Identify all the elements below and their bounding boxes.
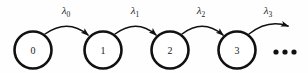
ellipsis-dot-1 [273,49,278,54]
state-label-2: 2 [168,45,173,56]
transition-arc-lambda-0 [45,26,88,35]
rate-labels-group: λ0 λ1 λ2 λ3 [61,4,273,19]
rate-label-lambda-2: λ2 [196,4,206,19]
lambda-subscript-3: 3 [269,10,273,19]
diagram-canvas: 0 1 2 3 λ0 λ1 λ2 [0,0,308,73]
rate-label-lambda-1: λ1 [130,4,140,19]
transition-arc-lambda-2 [182,26,223,35]
state-label-1: 1 [101,45,106,56]
ellipsis-dot-2 [282,49,287,54]
ellipsis-dot-3 [291,49,296,54]
rate-label-lambda-3: λ3 [263,4,273,19]
transition-arc-lambda-3 [249,24,288,34]
lambda-subscript-2: 2 [202,10,206,19]
state-node-0[interactable]: 0 [15,32,52,69]
markov-chain-diagram: 0 1 2 3 λ0 λ1 λ2 [0,0,308,73]
rate-label-lambda-0: λ0 [61,4,71,19]
state-label-0: 0 [31,45,36,56]
lambda-subscript-0: 0 [67,10,71,19]
state-node-3[interactable]: 3 [219,32,256,69]
state-nodes-group: 0 1 2 3 [15,32,256,69]
transition-arc-lambda-1 [115,26,156,35]
state-node-1[interactable]: 1 [85,32,122,69]
continuation-ellipsis [273,49,296,54]
state-label-3: 3 [235,45,240,56]
state-node-2[interactable]: 2 [152,32,189,69]
lambda-subscript-1: 1 [136,10,140,19]
